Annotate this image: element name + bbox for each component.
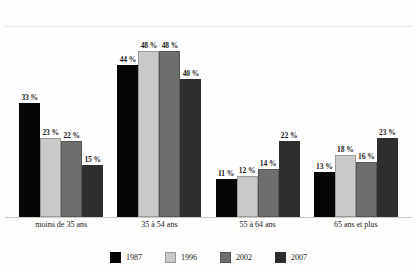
category-axis: moins de 35 ans35 à 54 ans55 à 64 ans65 … <box>5 220 412 234</box>
bar-2002-3[interactable] <box>356 162 377 217</box>
plot-area: 33 %23 %22 %15 %44 %48 %48 %40 %11 %12 %… <box>5 26 412 218</box>
bar-value-label: 23 % <box>379 128 395 137</box>
bar-value-label: 11 % <box>218 169 234 178</box>
bar-value-label: 13 % <box>316 162 332 171</box>
bar-2007-3[interactable] <box>377 138 398 217</box>
bar-value-label: 48 % <box>162 41 178 50</box>
legend-swatch-icon <box>110 252 121 263</box>
legend-item-1996[interactable]: 1996 <box>165 252 197 263</box>
bar-2007-1[interactable] <box>180 79 201 217</box>
bar-value-label: 16 % <box>358 152 374 161</box>
category-label-0: moins de 35 ans <box>19 220 103 229</box>
bar-2002-1[interactable] <box>159 51 180 217</box>
legend-swatch-icon <box>275 252 286 263</box>
bar-value-label: 23 % <box>42 128 58 137</box>
bar-group: 44 %48 %48 %40 % <box>117 27 201 217</box>
legend-swatch-icon <box>165 252 176 263</box>
bar-1987-1[interactable] <box>117 65 138 217</box>
bar-value-label: 33 % <box>21 93 37 102</box>
bar-1996-2[interactable] <box>237 176 258 217</box>
bar-1996-1[interactable] <box>138 51 159 217</box>
category-label-1: 35 à 54 ans <box>117 220 201 229</box>
bar-group: 11 %12 %14 %22 % <box>216 27 300 217</box>
bar-2007-0[interactable] <box>82 165 103 217</box>
bar-value-label: 40 % <box>183 69 199 78</box>
legend-swatch-icon <box>220 252 231 263</box>
bar-1996-3[interactable] <box>335 155 356 217</box>
bar-value-label: 18 % <box>337 145 353 154</box>
bar-group: 13 %18 %16 %23 % <box>314 27 398 217</box>
legend-item-2007[interactable]: 2007 <box>275 252 307 263</box>
legend-label: 2002 <box>236 253 252 262</box>
chart-title <box>0 0 417 5</box>
bar-value-label: 14 % <box>260 159 276 168</box>
bar-value-label: 22 % <box>281 131 297 140</box>
bar-group: 33 %23 %22 %15 % <box>19 27 103 217</box>
bar-2002-2[interactable] <box>258 169 279 217</box>
legend-item-2002[interactable]: 2002 <box>220 252 252 263</box>
bar-1987-3[interactable] <box>314 172 335 217</box>
bar-1987-2[interactable] <box>216 179 237 217</box>
bar-value-label: 12 % <box>239 166 255 175</box>
legend-label: 1987 <box>126 253 142 262</box>
bar-2002-0[interactable] <box>61 141 82 217</box>
category-label-2: 55 à 64 ans <box>216 220 300 229</box>
bar-value-label: 48 % <box>141 41 157 50</box>
chart-legend: 1987199620022007 <box>0 250 417 264</box>
bar-chart: 33 %23 %22 %15 %44 %48 %48 %40 %11 %12 %… <box>0 0 417 271</box>
legend-label: 1996 <box>181 253 197 262</box>
bar-1987-0[interactable] <box>19 103 40 217</box>
bar-1996-0[interactable] <box>40 138 61 217</box>
category-label-3: 65 ans et plus <box>314 220 398 229</box>
bar-value-label: 44 % <box>120 55 136 64</box>
legend-label: 2007 <box>291 253 307 262</box>
bar-value-label: 15 % <box>84 155 100 164</box>
legend-item-1987[interactable]: 1987 <box>110 252 142 263</box>
bar-2007-2[interactable] <box>279 141 300 217</box>
bar-value-label: 22 % <box>63 131 79 140</box>
